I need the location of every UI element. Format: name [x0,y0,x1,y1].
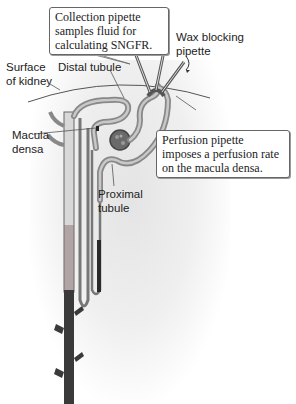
wax-blocking-label: Wax blocking pipette [176,30,246,58]
duct-branch [54,324,64,334]
leader-perfusion [176,96,196,110]
nephron-diagram: Collection pipette samples fluid for cal… [0,0,296,404]
leader-distal [110,70,124,98]
duct-branch-upper [50,112,64,126]
callout-text: Collection pipette samples fluid for cal… [55,10,152,52]
duct-branch [74,352,84,362]
collecting-duct-lower [64,290,74,404]
duct-branch [54,368,64,378]
macula-densa-label: Macula densa [12,128,56,156]
callout-text: Perfusion pipette imposes a perfusion ra… [162,133,279,175]
macula-densa-marker [96,126,99,131]
loop-of-henle-outer [80,118,88,306]
flow-arrow-icon [186,56,189,70]
collecting-duct-mid [64,225,74,290]
perfusion-pipette-callout: Perfusion pipette imposes a perfusion ra… [156,130,290,178]
surface-of-kidney-label: Surface of kidney [6,60,54,88]
loop-dark-segment [97,240,101,292]
duct-branch [74,306,84,316]
proximal-tubule-label: Proximal tubule [98,187,148,215]
distal-tubule-label: Distal tubule [58,60,121,74]
leader-proximal [112,164,114,186]
collection-pipette-callout: Collection pipette samples fluid for cal… [49,7,169,55]
